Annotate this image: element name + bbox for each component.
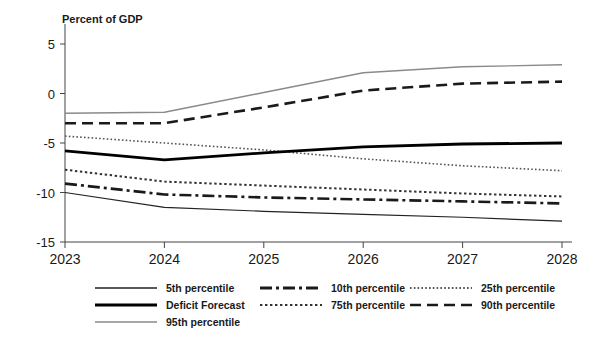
y-tick-label: -5: [43, 136, 55, 151]
legend-label-90th-percentile: 90th percentile: [481, 299, 555, 311]
legend-label-25th-percentile: 25th percentile: [481, 282, 555, 294]
y-tick-label: -10: [36, 186, 55, 201]
legend-label-5th-percentile: 5th percentile: [166, 282, 234, 294]
series-line-25th-percentile: [65, 136, 562, 171]
percent-of-gdp-line-chart: 50-5-10-15 202320242025202620272028 Perc…: [0, 0, 595, 347]
chart-page: 50-5-10-15 202320242025202620272028 Perc…: [0, 0, 595, 347]
series-line-95th-percentile: [65, 65, 562, 114]
x-tick-label: 2024: [149, 251, 180, 267]
chart-legend: 5th percentile10th percentile25th percen…: [95, 282, 555, 328]
chart-axes: [65, 24, 572, 242]
x-tick-label: 2026: [348, 251, 379, 267]
chart-series-lines: [65, 65, 562, 221]
x-tick-label: 2023: [49, 251, 80, 267]
y-axis-label: Percent of GDP: [62, 13, 143, 25]
series-line-5th-percentile: [65, 193, 562, 222]
series-line-10th-percentile: [65, 184, 562, 204]
y-tick-label: 5: [48, 37, 55, 52]
legend-label-deficit-forecast: Deficit Forecast: [166, 299, 245, 311]
legend-label-95th-percentile: 95th percentile: [166, 316, 240, 328]
y-tick-label: -15: [36, 235, 55, 250]
legend-label-10th-percentile: 10th percentile: [331, 282, 405, 294]
x-tick-label: 2027: [447, 251, 478, 267]
x-axis-ticks: 202320242025202620272028: [49, 242, 577, 267]
series-line-deficit-forecast: [65, 143, 562, 160]
x-tick-label: 2028: [546, 251, 577, 267]
legend-label-75th-percentile: 75th percentile: [331, 299, 405, 311]
y-axis-ticks: 50-5-10-15: [36, 37, 65, 250]
series-line-90th-percentile: [65, 82, 562, 124]
x-tick-label: 2025: [248, 251, 279, 267]
y-tick-label: 0: [48, 87, 55, 102]
